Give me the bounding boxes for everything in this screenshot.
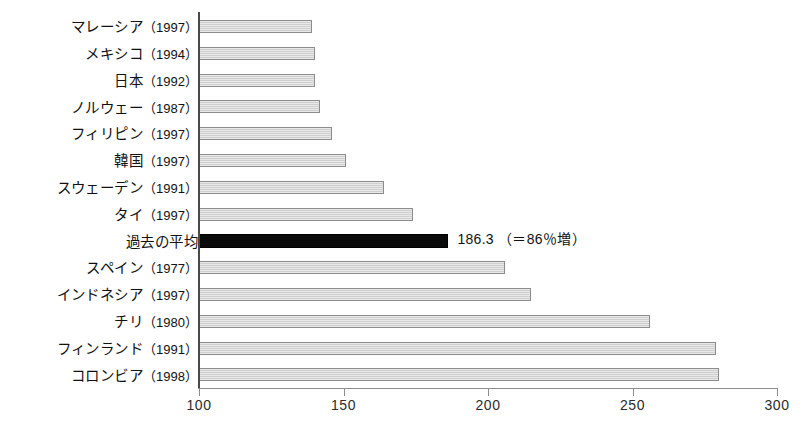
x-axis-tick [344, 389, 345, 396]
bar [199, 288, 531, 301]
bar-row-country: ノルウェー [71, 100, 143, 116]
bar [199, 181, 384, 194]
bar-row: 日本（1992） [0, 68, 802, 95]
bar-row-label: 韓国（1997） [8, 154, 198, 169]
x-axis-tick [488, 389, 489, 396]
bar-row-label: スウェーデン（1991） [8, 181, 198, 196]
x-axis-tick-label: 250 [620, 398, 645, 412]
x-axis-tick-label: 150 [331, 398, 356, 412]
bar-row: チリ（1980） [0, 309, 802, 336]
bar [199, 315, 650, 328]
bar-row-year: （1991） [143, 181, 198, 196]
x-axis-tick [633, 389, 634, 396]
bar-row: 韓国（1997） [0, 148, 802, 175]
bar-row-year: （1997） [143, 20, 198, 35]
x-axis-tick-label: 300 [765, 398, 790, 412]
bar-row-label: タイ（1997） [8, 208, 198, 223]
bar-row-country: マレーシア [71, 19, 143, 35]
bar-row-year: （1991） [143, 342, 198, 357]
bar-row-year: （1997） [143, 154, 198, 169]
bar [199, 368, 719, 381]
bar-row-label: 日本（1992） [8, 74, 198, 89]
bar-row-label: コロンビア（1998） [8, 369, 198, 384]
bar-row-label: インドネシア（1997） [8, 288, 198, 303]
y-axis-line [198, 12, 200, 389]
bar-row: メキシコ（1994） [0, 41, 802, 68]
bar-row-label: チリ（1980） [8, 315, 198, 330]
bar-value-annotation: 186.3 （＝86％増） [457, 232, 585, 246]
bar-row: コロンビア（1998） [0, 362, 802, 389]
bar-row: マレーシア（1997） [0, 14, 802, 41]
bar-row-country: チリ [114, 314, 143, 330]
bar-row-label: スペイン（1977） [8, 261, 198, 276]
bar-row-label: 過去の平均 [8, 235, 198, 250]
bar-row-label: フィンランド（1991） [8, 342, 198, 357]
bar-highlighted [199, 234, 448, 248]
bar-row-year: （1997） [143, 288, 198, 303]
bar-row-country: 過去の平均 [126, 234, 198, 250]
bar [199, 208, 413, 221]
bar-rows-container: マレーシア（1997）メキシコ（1994）日本（1992）ノルウェー（1987）… [0, 0, 802, 435]
bar-row-year: （1997） [143, 208, 198, 223]
bar-row-label: メキシコ（1994） [8, 47, 198, 62]
bar-row-country: フィリピン [71, 126, 143, 142]
bar-row-country: メキシコ [85, 46, 143, 62]
bar-row-country: 日本 [114, 73, 143, 89]
x-axis-tick [777, 389, 778, 396]
bar-row-year: （1998） [143, 369, 198, 384]
bar-row-year: （1980） [143, 315, 198, 330]
bar-row: フィリピン（1997） [0, 121, 802, 148]
bar-row: スペイン（1977） [0, 255, 802, 282]
bar-row-country: コロンビア [71, 368, 143, 384]
bar-row-year: （1977） [143, 261, 198, 276]
bar [199, 20, 312, 33]
bar-row-country: 韓国 [114, 153, 143, 169]
bar-row: スウェーデン（1991） [0, 175, 802, 202]
bar [199, 100, 320, 113]
x-axis-tick-label: 200 [476, 398, 501, 412]
bar-row-year: （1987） [143, 101, 198, 116]
bar-row-country: スペイン [86, 260, 143, 276]
bar-row-country: インドネシア [57, 287, 143, 303]
bar [199, 154, 346, 167]
bar-row-label: マレーシア（1997） [8, 20, 198, 35]
bar-row-year: （1992） [143, 74, 198, 89]
bar [199, 127, 332, 140]
bar-row: 過去の平均186.3 （＝86％増） [0, 228, 802, 255]
bar-row: インドネシア（1997） [0, 282, 802, 309]
bar [199, 342, 716, 355]
bar-row: ノルウェー（1987） [0, 94, 802, 121]
bar-row-label: フィリピン（1997） [8, 127, 198, 142]
bar-row: タイ（1997） [0, 202, 802, 229]
bar [199, 47, 315, 60]
bar-row-year: （1997） [143, 127, 198, 142]
bar-row-label: ノルウェー（1987） [8, 101, 198, 116]
bar-row-country: タイ [114, 207, 143, 223]
bar [199, 261, 505, 274]
bar-row-country: フィンランド [57, 341, 143, 357]
x-axis-tick-label: 100 [187, 398, 212, 412]
bar-row-year: （1994） [143, 47, 198, 62]
bar-chart: マレーシア（1997）メキシコ（1994）日本（1992）ノルウェー（1987）… [0, 0, 802, 435]
x-axis-tick [199, 389, 200, 396]
bar-row: フィンランド（1991） [0, 336, 802, 363]
bar [199, 74, 315, 87]
bar-row-country: スウェーデン [57, 180, 143, 196]
